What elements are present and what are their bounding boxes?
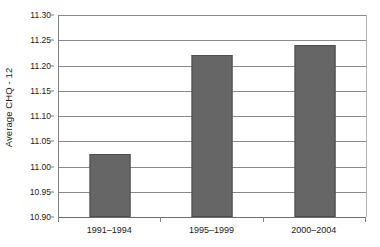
x-axis-tick-mark <box>160 217 161 222</box>
x-axis-tick-label: 1995–1999 <box>160 225 262 235</box>
y-axis-tick-mark <box>50 166 54 167</box>
x-axis-tick-mark <box>365 217 366 222</box>
bar[interactable] <box>294 45 335 217</box>
x-axis-tick-mark <box>58 217 59 222</box>
y-axis-tick-label: 11.25 <box>30 35 51 45</box>
y-axis-title-label: Average CHQ - 12 <box>4 68 15 148</box>
y-axis-tick-mark <box>50 191 54 192</box>
bar[interactable] <box>192 55 233 217</box>
y-axis-tick-label: 11.05 <box>30 136 51 146</box>
y-axis-tick-label: 11.20 <box>30 61 51 71</box>
bar-slot <box>161 15 263 217</box>
x-axis-tick-mark <box>263 217 264 222</box>
y-axis-tick-label: 10.95 <box>30 187 51 197</box>
y-axis-tick-mark <box>50 116 54 117</box>
y-axis-title: Average CHQ - 12 <box>0 0 18 215</box>
y-axis-tick-label: 10.90 <box>30 212 51 222</box>
y-axis-tick-mark <box>50 15 54 16</box>
bars-group <box>59 15 366 217</box>
plot-area <box>58 15 367 217</box>
bar-chart-figure: Average CHQ - 12 11.3011.2511.2011.1511.… <box>0 0 380 247</box>
y-axis-tick-mark <box>50 141 54 142</box>
x-axis-tick-label: 2000–2004 <box>263 225 365 235</box>
x-axis-tick-labels: 1991–19941995–19992000–2004 <box>58 225 365 235</box>
y-axis-tick-label: 11.00 <box>30 162 51 172</box>
y-axis-tick-mark <box>50 217 54 218</box>
bar-slot <box>59 15 161 217</box>
y-axis-tick-label: 11.15 <box>30 86 51 96</box>
bar-slot <box>264 15 366 217</box>
x-axis-tick-marks <box>58 217 365 223</box>
y-axis-tick-labels: 11.3011.2511.2011.1511.1011.0511.0010.95… <box>18 0 54 226</box>
y-axis-tick-label: 11.30 <box>30 10 51 20</box>
y-axis-tick-mark <box>50 40 54 41</box>
bar[interactable] <box>90 154 131 217</box>
x-axis-tick-label: 1991–1994 <box>58 225 160 235</box>
y-axis-tick-mark <box>50 65 54 66</box>
y-axis-tick-label: 11.10 <box>30 111 51 121</box>
y-axis-tick-mark <box>50 90 54 91</box>
